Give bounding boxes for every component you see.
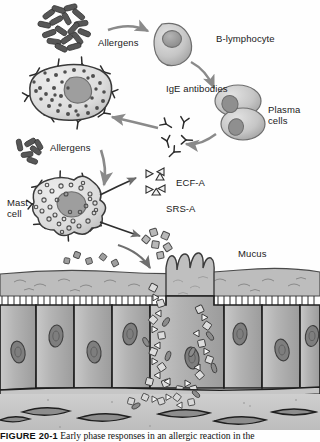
mucus-layer: [0, 268, 320, 296]
arrow-mast-cell-to-histamine: [100, 222, 140, 236]
label-ige-antibodies: IgE antibodies: [166, 84, 228, 95]
allergen-cluster-left: [16, 137, 44, 165]
scattered-mediator-granules: [64, 251, 119, 267]
b-lymphocyte-cell: [154, 23, 192, 65]
figure-caption: FIGURE 20-1 Early phase responses in an …: [0, 430, 320, 442]
figure-container: Allergens B-lymphocyte IgE antibodies Pl…: [0, 0, 320, 442]
label-ecf-a: ECF-A: [176, 178, 205, 189]
label-b-lymphocyte: B-lymphocyte: [216, 34, 275, 45]
free-ige-antibodies: [160, 117, 193, 160]
arrow-mediators-to-epithelium: [118, 245, 150, 268]
arrow-allergens-to-mast-cell: [101, 150, 105, 185]
allergy-diagram-illustration: [0, 0, 320, 442]
goblet-cell: [166, 253, 214, 296]
label-mast-cell-line2: cell: [7, 209, 22, 220]
histamine-granules: [141, 228, 172, 259]
arrow-plasma-cells-to-ige: [186, 134, 216, 144]
mast-cell-resting: [22, 57, 117, 130]
label-allergens-top: Allergens: [98, 38, 139, 49]
submucosa-layer: [0, 389, 320, 430]
label-srs-a: SRS-A: [166, 204, 196, 215]
figure-number: FIGURE 20-1: [0, 431, 58, 441]
arrow-allergens-to-b-lymphocyte: [108, 26, 148, 31]
allergen-cluster-top: [37, 3, 91, 53]
label-plasma-cells-line2: cells: [268, 116, 288, 127]
label-mucus: Mucus: [238, 249, 266, 260]
mast-cell-degranulating: [27, 171, 106, 241]
label-allergens-left: Allergens: [50, 143, 91, 154]
figure-caption-text: Early phase responses in an allergic rea…: [58, 430, 255, 441]
ecf-a-granules: [146, 168, 165, 195]
arrow-ige-to-mast-cell: [112, 117, 158, 128]
